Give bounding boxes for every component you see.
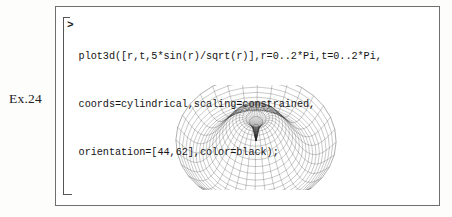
surface-wireframe-svg bbox=[161, 85, 351, 190]
code-line-1: plot3d([r,t,5*sin(r)/sqrt(r)],r=0..2*Pi,… bbox=[79, 49, 382, 65]
bracket-bottom-tick bbox=[63, 194, 72, 195]
prompt-symbol: > bbox=[67, 17, 74, 33]
maple-worksheet-frame: > plot3d([r,t,5*sin(r)/sqrt(r)],r=0..2*P… bbox=[55, 6, 440, 206]
wireframe-mesh bbox=[176, 85, 336, 190]
scanned-page: Ex.24 > plot3d([r,t,5*sin(r)/sqrt(r)],r=… bbox=[0, 0, 452, 217]
exercise-label: Ex.24 bbox=[9, 91, 42, 107]
bracket-vertical-bar bbox=[63, 17, 64, 195]
plot3d-output[interactable] bbox=[161, 85, 351, 190]
